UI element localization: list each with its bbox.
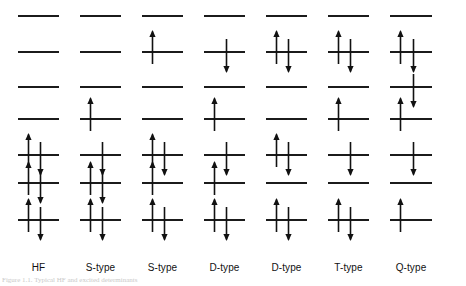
spin-up-arrow	[209, 198, 220, 232]
spin-down-arrow	[345, 142, 356, 176]
energy-level-line	[328, 86, 369, 88]
col-s-type-1	[80, 0, 121, 286]
col-t-type	[328, 0, 369, 286]
energy-level-line	[204, 15, 245, 17]
spin-down-arrow	[283, 142, 294, 176]
energy-level-line	[328, 15, 369, 17]
spin-up-arrow	[395, 30, 406, 64]
spin-down-arrow	[97, 207, 108, 241]
spin-down-arrow	[159, 207, 170, 241]
energy-level-line	[142, 118, 183, 120]
energy-level-line	[328, 182, 369, 184]
col-s-type-2	[142, 0, 183, 286]
spin-up-arrow	[271, 30, 282, 64]
column-label-d-type: D-type	[252, 262, 321, 273]
figure-caption: Figure 1.1. Typical HF and excited deter…	[2, 276, 466, 284]
energy-level-line	[142, 86, 183, 88]
spin-up-arrow	[147, 161, 158, 195]
spin-down-arrow	[221, 207, 232, 241]
spin-up-arrow	[333, 30, 344, 64]
spin-down-arrow	[35, 207, 46, 241]
spin-up-arrow	[333, 198, 344, 232]
energy-level-line	[18, 15, 59, 17]
energy-level-line	[142, 15, 183, 17]
spin-down-arrow	[283, 39, 294, 73]
energy-level-line	[266, 118, 307, 120]
col-hf	[18, 0, 59, 286]
spin-up-arrow	[23, 161, 34, 195]
col-d-type-1	[204, 0, 245, 286]
spin-up-arrow	[85, 198, 96, 232]
spin-down-arrow	[408, 142, 419, 176]
column-label-d-type: D-type	[190, 262, 259, 273]
spin-down-arrow	[408, 74, 419, 108]
spin-down-arrow	[345, 207, 356, 241]
energy-level-line	[80, 86, 121, 88]
energy-level-line	[18, 86, 59, 88]
spin-up-arrow	[147, 198, 158, 232]
col-d-type-2	[266, 0, 307, 286]
column-label-s-type: S-type	[66, 262, 135, 273]
spin-down-arrow	[221, 39, 232, 73]
spin-up-arrow	[147, 30, 158, 64]
spin-up-arrow	[395, 198, 406, 232]
spin-up-arrow	[271, 198, 282, 232]
energy-level-line	[390, 182, 432, 184]
energy-level-line	[204, 86, 245, 88]
spin-down-arrow	[159, 142, 170, 176]
energy-level-line	[18, 118, 59, 120]
spin-down-arrow	[345, 39, 356, 73]
column-label-q-type: Q-type	[376, 262, 446, 273]
spin-up-arrow	[333, 97, 344, 131]
column-label-s-type: S-type	[128, 262, 197, 273]
energy-level-line	[18, 51, 59, 53]
spin-down-arrow	[283, 207, 294, 241]
orbital-diagram-figure: HFS-typeS-typeD-typeD-typeT-typeQ-type	[0, 0, 466, 286]
energy-level-line	[266, 182, 307, 184]
energy-level-line	[80, 15, 121, 17]
energy-level-line	[266, 86, 307, 88]
col-q-type	[390, 0, 432, 286]
spin-up-arrow	[209, 161, 220, 195]
spin-down-arrow	[408, 39, 419, 73]
spin-up-arrow	[85, 161, 96, 195]
spin-up-arrow	[209, 97, 220, 131]
energy-level-line	[266, 15, 307, 17]
spin-up-arrow	[23, 198, 34, 232]
energy-level-line	[390, 15, 432, 17]
column-label-t-type: T-type	[314, 262, 383, 273]
spin-up-arrow	[85, 97, 96, 131]
energy-level-line	[80, 51, 121, 53]
spin-up-arrow	[271, 133, 282, 167]
spin-down-arrow	[221, 142, 232, 176]
spin-down-arrow	[97, 170, 108, 204]
spin-up-arrow	[395, 97, 406, 131]
spin-down-arrow	[35, 170, 46, 204]
column-label-hf: HF	[4, 262, 73, 273]
